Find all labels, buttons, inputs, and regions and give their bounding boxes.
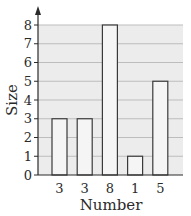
x-tick-label: 5 <box>156 181 164 196</box>
x-tick-label: 3 <box>55 181 63 196</box>
x-axis: 33815 <box>38 175 183 196</box>
arrow-up-icon <box>35 6 41 15</box>
y-tick-label: 7 <box>24 36 32 51</box>
y-tick-label: 5 <box>24 74 32 89</box>
bar <box>128 156 143 175</box>
y-tick-label: 8 <box>24 18 32 33</box>
bar <box>102 25 117 175</box>
bar <box>52 119 67 175</box>
y-tick-label: 3 <box>24 111 32 126</box>
y-tick-label: 1 <box>24 149 32 164</box>
bar <box>77 119 92 175</box>
y-tick-label: 2 <box>24 130 32 145</box>
y-axis: 012345678 <box>24 6 41 183</box>
bar-chart: 012345678 33815 Number Size <box>0 0 191 216</box>
x-tick-label: 3 <box>81 181 89 196</box>
bar <box>153 81 168 175</box>
y-tick-label: 6 <box>24 55 32 70</box>
x-tick-label: 8 <box>106 181 114 196</box>
x-axis-label: Number <box>80 196 143 214</box>
y-axis-label: Size <box>3 84 21 116</box>
x-tick-label: 1 <box>131 181 139 196</box>
y-tick-label: 0 <box>24 168 32 183</box>
y-tick-label: 4 <box>24 93 32 108</box>
